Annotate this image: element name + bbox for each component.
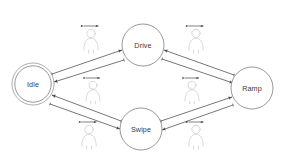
person-head-icon (192, 125, 200, 133)
person-body-icon (82, 134, 96, 146)
state-node-swipe[interactable]: Swipe (120, 108, 162, 150)
person-body-icon (84, 38, 98, 50)
person-head-icon (85, 125, 93, 133)
actor-swipe-ramp-lower-icon (189, 122, 204, 149)
state-node-ramp-label: Ramp (242, 84, 262, 93)
person-head-icon (87, 29, 95, 37)
actor-drive-ramp-upper-icon (189, 26, 204, 53)
state-node-drive-label: Drive (134, 41, 151, 50)
person-body-icon (86, 90, 100, 101)
person-head-icon (89, 81, 97, 89)
actor-idle-drive-upper-icon (84, 26, 99, 53)
state-node-ramp[interactable]: Ramp (231, 67, 273, 109)
edge-idle-to-drive (52, 50, 122, 74)
state-node-swipe-label: Swipe (131, 125, 151, 134)
person-body-icon (189, 38, 203, 50)
person-body-icon (189, 134, 203, 146)
person-head-icon (192, 29, 200, 37)
nodes-layer: Idle Drive Ramp Swipe (12, 24, 273, 150)
state-node-idle-label: Idle (27, 80, 39, 89)
state-machine-diagram: Idle Drive Ramp Swipe (0, 0, 284, 158)
person-head-icon (188, 81, 196, 89)
edge-drive-to-idle (54, 60, 124, 82)
person-body-icon (185, 90, 199, 101)
state-node-drive[interactable]: Drive (122, 24, 164, 66)
actor-idle-swipe-lower-icon (82, 122, 97, 149)
state-node-idle[interactable]: Idle (12, 63, 54, 105)
actor-drive-ramp-lower-icon (185, 78, 199, 104)
diagram-canvas: Idle Drive Ramp Swipe (0, 0, 284, 158)
actor-idle-drive-lower-icon (86, 78, 100, 104)
